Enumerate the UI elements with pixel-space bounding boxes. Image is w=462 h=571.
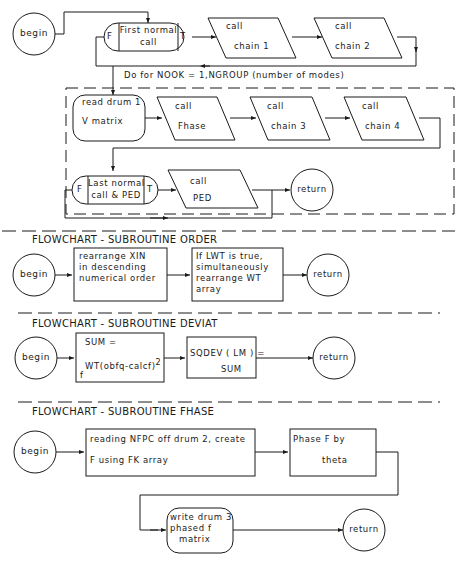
loop-label: Do for NOOK = 1,NGROUP (number of modes) [124,70,344,81]
order-return-label: return [307,269,349,280]
order-box2-line2: simultaneously [196,262,269,273]
chain2-call: call [335,21,352,32]
chain4-name: chain 4 [365,121,400,132]
first-normal-call-line1: First normal [119,25,178,36]
order-begin-label: begin [13,269,55,280]
flowchart-lines [0,0,462,571]
chain1-call: call [226,21,243,32]
ped-name: PED [193,193,212,204]
last-call-false-label: F [77,184,83,195]
last-call-true-label: T [147,184,153,195]
deviat-sum-line2: WT(obfq-calcf)2 [85,357,161,372]
read-drum-line1: read drum 1 [82,97,141,108]
order-box2-line3: rearrange WT [196,273,261,284]
order-box2-line1: If LWT is true, [196,251,263,262]
last-normal-call-line1: Last normal [88,178,144,189]
fhase-box1-line1: reading NFPC off drum 2, create [90,434,246,445]
deviat-sum-expression: WT(obfq-calcf) [85,361,156,371]
fhase-name: Fhase [178,121,206,132]
deviat-title: FLOWCHART - SUBROUTINE DEVIAT [32,318,218,329]
read-drum-line2: V matrix [82,116,123,127]
fhase-box3-line2: phased f [170,523,212,534]
fhase-box2-line2: theta [322,455,348,466]
deviat-sqdev-line1: SQDEV ( LM ) = [190,348,265,359]
order-box2-line4: array [196,284,221,295]
chain3-call: call [267,101,284,112]
fhase-call: call [175,101,192,112]
fhase-box1-line2: F using FK array [90,455,168,466]
order-box1-line1: rearrange XIN [79,251,146,262]
ped-call: call [190,176,207,187]
fhase-box3-line1: write drum 3 [170,512,232,523]
last-normal-call-line2: call & PED [88,190,144,201]
fhase-box2-line1: Phase F by [293,434,345,445]
fhase-title: FLOWCHART - SUBROUTINE FHASE [32,406,214,417]
fhase-return-label: return [343,524,385,535]
order-box1-line2: in descending [79,262,146,273]
chain2-name: chain 2 [335,41,370,52]
chain4-call: call [362,101,379,112]
chain1-name: chain 1 [234,41,269,52]
chain3-name: chain 3 [271,121,306,132]
deviat-sum-line1: SUM = [85,337,117,348]
fhase-box3-line3: matrix [179,534,210,545]
deviat-sum-exponent: 2 [156,358,162,367]
begin-label: begin [13,28,55,39]
first-call-true-label: T [180,31,186,42]
fhase-begin-label: begin [14,446,56,457]
deviat-begin-label: begin [15,352,57,363]
first-call-false-label: F [107,31,113,42]
deviat-sqdev-line2: SUM [221,364,242,375]
return-label: return [291,184,333,195]
deviat-sum-subscript: f [80,370,84,381]
deviat-return-label: return [313,352,355,363]
first-normal-call-line2: call [119,37,178,48]
order-box1-line3: numerical order [79,273,156,284]
order-title: FLOWCHART - SUBROUTINE ORDER [32,234,217,245]
